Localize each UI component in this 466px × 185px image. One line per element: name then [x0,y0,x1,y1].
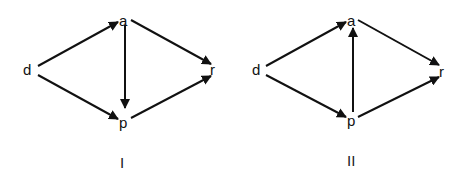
diagram-canvas: d a p r I d a p r II [0,0,466,185]
node-d: d [252,61,260,78]
node-p: p [119,114,127,131]
node-r: r [210,61,215,78]
edge-d-a [266,22,346,66]
edge-d-p [38,75,118,119]
diagram-1: d a p r I [23,12,215,171]
node-r: r [439,63,444,80]
edge-d-p [266,75,346,117]
edge-d-a [38,22,118,66]
node-d: d [23,61,31,78]
caption-1: I [120,154,124,171]
edge-a-r [358,20,439,65]
node-a: a [119,12,128,29]
edge-p-r [131,76,211,118]
node-a: a [347,12,356,29]
edge-a-r [131,20,211,64]
node-p: p [347,112,355,129]
caption-2: II [347,152,355,169]
edge-p-r [358,77,439,117]
diagram-2: d a p r II [252,12,444,169]
